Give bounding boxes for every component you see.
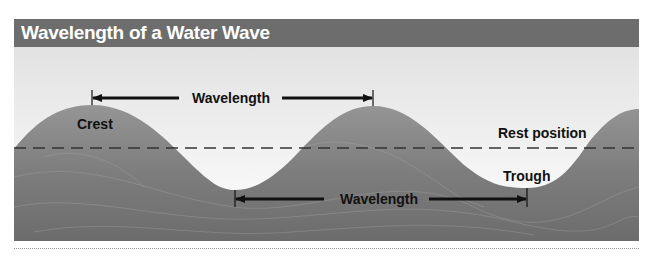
trough-label: Trough	[503, 168, 550, 184]
wave-illustration	[14, 47, 639, 241]
wavelength-label-bottom: Wavelength	[340, 191, 418, 207]
wave-diagram-figure: Wavelength of a Water Wave	[14, 19, 639, 241]
wavelength-label-top: Wavelength	[192, 90, 270, 106]
title-bar: Wavelength of a Water Wave	[14, 19, 639, 47]
rest-position-label: Rest position	[498, 125, 587, 141]
crest-label: Crest	[77, 116, 113, 132]
footer-dotted-rule	[14, 248, 639, 249]
figure-title: Wavelength of a Water Wave	[21, 22, 270, 44]
